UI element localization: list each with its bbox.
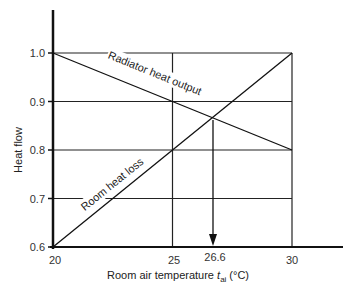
arrow-head-icon	[209, 234, 217, 246]
chart: 1.0 0.9 0.8 0.7 0.6 20 25 30 Heat flow R…	[0, 0, 360, 293]
y-tick-label: 0.6	[30, 241, 45, 253]
x-axis-label: Room air temperature tai(°C)	[107, 269, 249, 284]
y-tick-label: 0.9	[30, 96, 45, 108]
x-tick-label: 30	[286, 254, 298, 266]
y-tick-label: 0.8	[30, 144, 45, 156]
y-tick-label: 1.0	[30, 47, 45, 59]
radiator-heat-output-label: Radiator heat output	[107, 49, 204, 98]
intersection-value-label: 26.6	[204, 251, 225, 263]
y-axis-label: Heat flow	[12, 127, 24, 173]
y-tick-label: 0.7	[30, 193, 45, 205]
x-tick-label: 20	[49, 254, 61, 266]
x-tick-label: 25	[168, 254, 180, 266]
room-heat-loss-label: Room heat loss	[79, 155, 146, 213]
